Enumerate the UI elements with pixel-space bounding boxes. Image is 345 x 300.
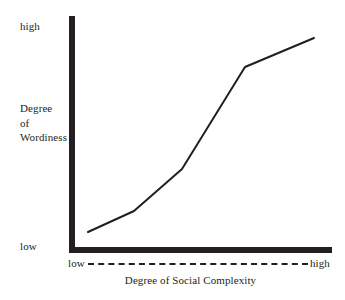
y-axis-low-tick-label: low [20, 241, 37, 252]
y-axis-title-line-1: Degree [20, 101, 72, 116]
series-line-wordiness [88, 38, 314, 232]
plot-curve [0, 0, 345, 300]
y-axis-title-line-2: of [20, 116, 72, 131]
chart-figure: high low Degree of Wordiness low high De… [0, 0, 345, 300]
x-axis-title: Degree of Social Complexity [0, 275, 345, 286]
x-axis-line [69, 247, 332, 253]
x-axis-dashed-rule [88, 263, 308, 265]
y-axis-high-tick-label: high [20, 21, 40, 32]
y-axis-title-line-3: Wordiness [20, 130, 72, 145]
y-axis-title: Degree of Wordiness [20, 101, 72, 145]
x-axis-low-tick-label: low [68, 258, 85, 269]
x-axis-high-tick-label: high [310, 258, 330, 269]
